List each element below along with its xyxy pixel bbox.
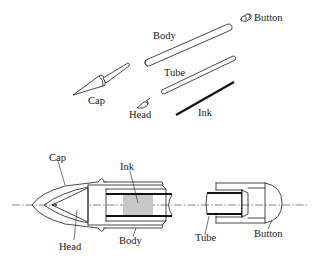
exploded-head: Head: [129, 98, 152, 120]
exploded-view: Body Button Tube Cap Head I: [73, 12, 283, 120]
section-tube-right: [206, 193, 242, 214]
exploded-body-label: Body: [153, 30, 177, 41]
exploded-ink: Ink: [176, 82, 234, 118]
section-ink-label: Ink: [120, 161, 135, 172]
pen-parts-diagram: Body Button Tube Cap Head I: [0, 0, 317, 270]
section-cap-label: Cap: [49, 152, 66, 163]
exploded-ink-label: Ink: [198, 107, 213, 118]
exploded-body: Body: [145, 24, 232, 66]
exploded-button-label: Button: [254, 12, 283, 23]
exploded-cap-label: Cap: [88, 95, 105, 106]
section-head-label: Head: [59, 241, 82, 252]
section-body-label: Body: [119, 235, 143, 246]
section-button-label: Button: [254, 228, 283, 239]
section-head: [52, 188, 88, 222]
assembled-section: Cap Ink Head Body Tube Button: [12, 152, 308, 252]
section-button: [216, 183, 282, 223]
exploded-tube-label: Tube: [164, 67, 186, 78]
section-ink-fill: [123, 195, 153, 215]
exploded-button: Button: [241, 12, 283, 23]
exploded-cap: Cap: [73, 63, 129, 106]
exploded-head-label: Head: [129, 109, 152, 120]
section-tube-label: Tube: [195, 232, 217, 243]
